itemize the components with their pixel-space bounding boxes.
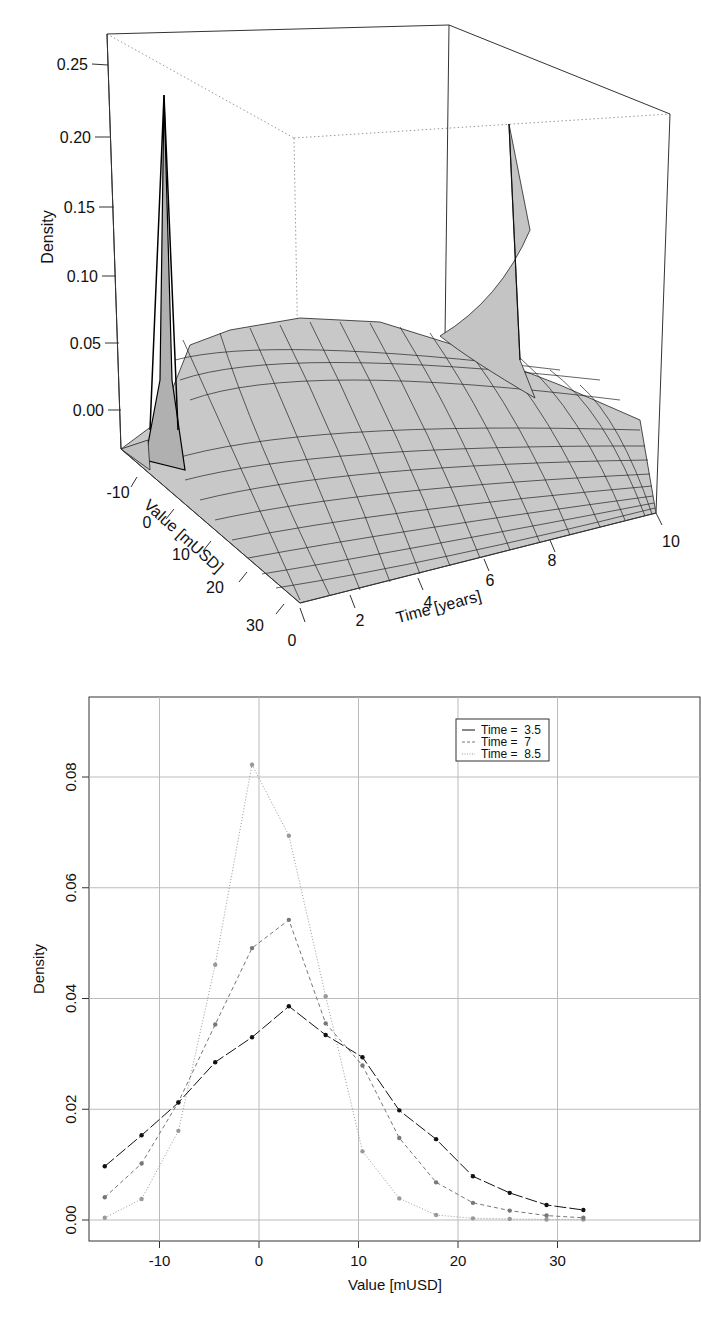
- data-point: [360, 1149, 364, 1153]
- data-point: [508, 1208, 512, 1212]
- data-point: [581, 1216, 585, 1220]
- x-tick-label: 20: [450, 1252, 467, 1269]
- x-tick-label: -10: [149, 1252, 171, 1269]
- z-tick-label: 0.00: [73, 402, 104, 419]
- data-point: [323, 1021, 327, 1025]
- time-tick-label: 6: [486, 572, 495, 589]
- x-tick-label: 0: [255, 1252, 263, 1269]
- value-tick-label: 20: [206, 579, 224, 596]
- data-point: [397, 1108, 401, 1112]
- data-point: [360, 1063, 364, 1067]
- data-point: [544, 1203, 548, 1207]
- surface-plot: 0.25 0.20 0.15 0.10 0.05 0.00 Density -1…: [0, 0, 701, 660]
- data-point: [103, 1195, 107, 1199]
- y-tick-label: 0.00: [62, 1205, 79, 1234]
- data-point: [471, 1201, 475, 1205]
- data-point: [139, 1197, 143, 1201]
- data-point: [323, 1033, 327, 1037]
- x-axis-title: Value [mUSD]: [348, 1276, 442, 1293]
- x-tick-label: 30: [549, 1252, 566, 1269]
- data-point: [323, 994, 327, 998]
- data-point: [508, 1191, 512, 1195]
- y-tick-label: 0.02: [62, 1095, 79, 1124]
- data-point: [287, 833, 291, 837]
- z-tick-label: 0.10: [67, 268, 98, 285]
- data-point: [213, 963, 217, 967]
- z-axis-title: Density: [39, 210, 56, 263]
- time-tick-label: 0: [288, 632, 297, 649]
- data-point: [176, 1129, 180, 1133]
- data-point: [287, 1004, 291, 1008]
- legend: Time = 3.5 Time = 7 Time = 8.5: [456, 719, 549, 761]
- y-axis: Density 0.000.020.040.060.08: [30, 762, 89, 1234]
- density-line-chart: Density 0.000.020.040.060.08 Value [mUSD…: [0, 670, 701, 1331]
- density-line-chart-panel: Density 0.000.020.040.060.08 Value [mUSD…: [0, 670, 701, 1331]
- data-point: [471, 1216, 475, 1220]
- data-point: [360, 1055, 364, 1059]
- data-point: [250, 1035, 254, 1039]
- data-point: [544, 1213, 548, 1217]
- z-tick-label: 0.05: [70, 335, 101, 352]
- data-point: [471, 1174, 475, 1178]
- legend-label: Time = 8.5: [481, 747, 541, 761]
- x-axis: Value [mUSD] -100102030: [149, 1241, 566, 1293]
- value-tick-label: 30: [246, 617, 264, 634]
- y-tick-label: 0.04: [62, 984, 79, 1013]
- data-point: [250, 946, 254, 950]
- z-axis: 0.25 0.20 0.15 0.10 0.05 0.00 Density: [39, 34, 121, 449]
- time-axis-title: Time [years]: [394, 587, 483, 626]
- value-tick-label: -10: [106, 484, 129, 501]
- time-tick-label: 8: [548, 552, 557, 569]
- y-axis-title: Density: [30, 943, 47, 994]
- data-point: [508, 1217, 512, 1221]
- data-point: [287, 918, 291, 922]
- data-point: [397, 1196, 401, 1200]
- time-tick-label: 10: [662, 533, 680, 550]
- data-point: [434, 1137, 438, 1141]
- data-point: [434, 1213, 438, 1217]
- data-point: [139, 1133, 143, 1137]
- y-tick-label: 0.08: [62, 762, 79, 791]
- z-tick-label: 0.25: [57, 56, 88, 73]
- data-point: [103, 1164, 107, 1168]
- data-point: [581, 1208, 585, 1212]
- z-tick-label: 0.20: [60, 129, 91, 146]
- x-tick-label: 10: [350, 1252, 367, 1269]
- data-point: [544, 1217, 548, 1221]
- data-point: [397, 1136, 401, 1140]
- data-point: [213, 1060, 217, 1064]
- plot-frame: [89, 697, 700, 1241]
- data-point: [250, 763, 254, 767]
- time-tick-label: 2: [356, 612, 365, 629]
- z-tick-label: 0.15: [64, 199, 95, 216]
- data-point: [176, 1100, 180, 1104]
- data-point: [213, 1022, 217, 1026]
- surface-plot-panel: 0.25 0.20 0.15 0.10 0.05 0.00 Density -1…: [0, 0, 701, 660]
- y-tick-label: 0.06: [62, 873, 79, 902]
- data-point: [139, 1161, 143, 1165]
- data-point: [103, 1216, 107, 1220]
- data-point: [434, 1180, 438, 1184]
- density-surface: [121, 95, 656, 603]
